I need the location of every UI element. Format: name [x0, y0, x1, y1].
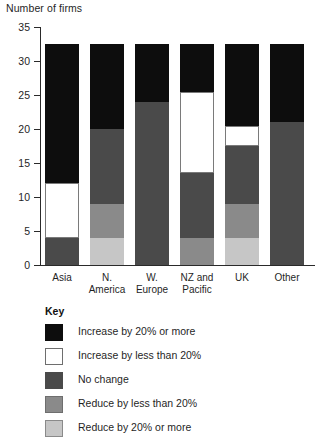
- bar-segment: [135, 102, 169, 265]
- y-tick-label: 30: [0, 56, 30, 66]
- bar-segment: [90, 204, 124, 238]
- bar-segment: [270, 44, 304, 122]
- bar-segment: [90, 129, 124, 204]
- bar-segment: [45, 238, 79, 265]
- bar-segment: [90, 44, 124, 129]
- legend-item-label: Reduce by 20% or more: [78, 421, 191, 433]
- bar-w-europe[interactable]: [135, 44, 169, 265]
- legend-swatch-icon: [45, 324, 63, 341]
- bar-other[interactable]: [270, 44, 304, 265]
- bar-segment: [270, 122, 304, 265]
- bar-segment: [90, 238, 124, 265]
- x-axis-label: Other: [256, 272, 318, 284]
- stacked-bar-chart: Number of firms 05101520253035 AsiaN.Ame…: [0, 0, 321, 444]
- x-axis-label-line: Pacific: [166, 284, 228, 296]
- plot-area: 05101520253035 AsiaN.AmericaW.EuropeNZ a…: [0, 0, 321, 300]
- y-tick-label: 20: [0, 124, 30, 134]
- y-tick-label: 35: [0, 22, 30, 32]
- bar-uk[interactable]: [225, 44, 259, 265]
- bar-segment: [180, 44, 214, 92]
- bar-segment: [225, 146, 259, 204]
- legend-item-label: Increase by 20% or more: [78, 325, 195, 337]
- bar-segment: [180, 173, 214, 238]
- bar-segment: [45, 183, 79, 237]
- bar-segment: [135, 44, 169, 102]
- bar-asia[interactable]: [45, 44, 79, 265]
- y-tick-label: 10: [0, 192, 30, 202]
- legend-item-label: No change: [78, 373, 129, 385]
- legend-title: Key: [45, 305, 64, 317]
- y-tick-label: 15: [0, 158, 30, 168]
- y-tick-label: 0: [0, 260, 30, 270]
- bar-segment: [45, 44, 79, 183]
- legend-swatch-icon: [45, 348, 63, 365]
- bar-n-america[interactable]: [90, 44, 124, 265]
- bar-segment: [180, 238, 214, 265]
- legend-swatch-icon: [45, 396, 63, 413]
- legend-item-label: Reduce by less than 20%: [78, 397, 197, 409]
- y-tick-label: 5: [0, 226, 30, 236]
- bar-nz-and-pacific[interactable]: [180, 44, 214, 265]
- bar-segment: [225, 204, 259, 238]
- bar-segment: [225, 44, 259, 126]
- x-axis-label-line: Other: [256, 272, 318, 284]
- legend-swatch-icon: [45, 420, 63, 437]
- legend: Key Increase by 20% or moreIncrease by l…: [0, 300, 321, 444]
- bar-segment: [225, 238, 259, 265]
- bar-segment: [180, 92, 214, 174]
- legend-swatch-icon: [45, 372, 63, 389]
- bar-segment: [225, 126, 259, 146]
- bar-group: [40, 0, 315, 300]
- y-tick-label: 25: [0, 90, 30, 100]
- legend-item-label: Increase by less than 20%: [78, 349, 201, 361]
